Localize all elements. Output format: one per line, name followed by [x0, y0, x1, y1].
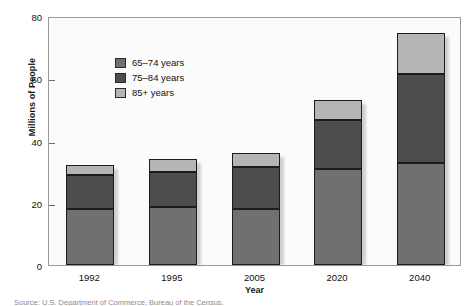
bar-segment [314, 120, 362, 168]
legend-swatch-65-74-icon [115, 58, 126, 68]
plot-area: 65–74 years 75–84 years 85+ years [48, 17, 461, 266]
y-axis-tick-label: 0 [20, 261, 42, 272]
bar-segment [66, 165, 114, 174]
x-axis-tick-label: 2040 [409, 272, 430, 283]
bar-1995 [149, 159, 197, 265]
y-axis-tick-labels: 020406080 [8, 0, 42, 306]
chart-legend: 65–74 years 75–84 years 85+ years [115, 56, 184, 101]
x-axis-tick-label: 1995 [161, 272, 182, 283]
legend-swatch-85-plus-icon [115, 88, 126, 98]
bar-segment [397, 163, 445, 265]
bar-segment [149, 207, 197, 265]
x-axis-tick-label: 2020 [327, 272, 348, 283]
chart-figure: Millions of People 020406080 65–74 years… [0, 0, 469, 306]
bar-segment [232, 209, 280, 265]
legend-item: 65–74 years [115, 56, 184, 69]
x-axis-tick-label: 2005 [244, 272, 265, 283]
bar-2040 [397, 33, 445, 265]
bar-segment [397, 74, 445, 163]
y-axis-tick-label: 80 [20, 12, 42, 23]
bar-segment [66, 175, 114, 209]
y-axis-tick-mark [49, 205, 55, 206]
bar-1992 [66, 165, 114, 265]
bar-segment [66, 209, 114, 265]
bar-segment [397, 33, 445, 73]
legend-label: 85+ years [132, 87, 174, 98]
legend-label: 65–74 years [132, 57, 184, 68]
y-axis-tick-label: 60 [20, 74, 42, 85]
bar-segment [314, 169, 362, 265]
y-axis-tick-label: 40 [20, 136, 42, 147]
bar-segment [149, 172, 197, 208]
y-axis-tick-mark [49, 143, 55, 144]
legend-swatch-75-84-icon [115, 73, 126, 83]
y-axis-tick-label: 20 [20, 198, 42, 209]
x-axis-title: Year [48, 285, 461, 295]
bar-segment [232, 167, 280, 209]
legend-item: 75–84 years [115, 71, 184, 84]
x-axis-tick-label: 1992 [79, 272, 100, 283]
legend-item: 85+ years [115, 86, 184, 99]
source-note: Source: U.S. Department of Commerce, Bur… [14, 298, 224, 306]
y-axis-tick-mark [49, 80, 55, 81]
legend-label: 75–84 years [132, 72, 184, 83]
bar-segment [232, 153, 280, 167]
bar-2020 [314, 100, 362, 265]
bar-2005 [232, 153, 280, 265]
bar-segment [314, 100, 362, 120]
bar-segment [149, 159, 197, 171]
